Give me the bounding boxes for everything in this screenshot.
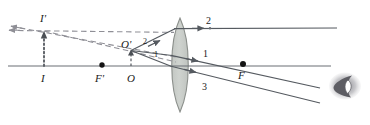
label-ray-three: 3 [202, 81, 207, 92]
converging-lens [172, 18, 189, 112]
eye-icon [329, 73, 361, 100]
virtual-extension-arrowheads [9, 26, 22, 30]
label-ray-one-near-lens: 1 [154, 50, 158, 59]
label-ray-two-near-lens: 2 [143, 37, 147, 46]
label-ray-one: 1 [203, 48, 208, 59]
label-object-base: O [127, 72, 135, 84]
focal-point-left-dot [99, 62, 104, 67]
label-focal-right: F [237, 69, 245, 81]
extension-arrow-lower [11, 26, 22, 28]
ray-2-tick-dot [209, 27, 211, 29]
optics-ray-diagram-figure: I' I F' O' O F 1 2 3 2 1 [0, 0, 370, 125]
focal-point-right-dot [240, 61, 246, 67]
virtual-ray-extensions [9, 26, 176, 62]
label-ray-two: 2 [206, 15, 211, 26]
label-object-tip: O' [121, 38, 132, 50]
label-focal-left: F' [94, 72, 105, 84]
lens-shape [172, 18, 189, 112]
label-image-tip: I' [39, 12, 47, 24]
image-arrow [41, 31, 47, 66]
label-image-base: I [40, 72, 46, 84]
ray-diagram-canvas: I' I F' O' O F 1 2 3 2 1 [0, 0, 370, 125]
